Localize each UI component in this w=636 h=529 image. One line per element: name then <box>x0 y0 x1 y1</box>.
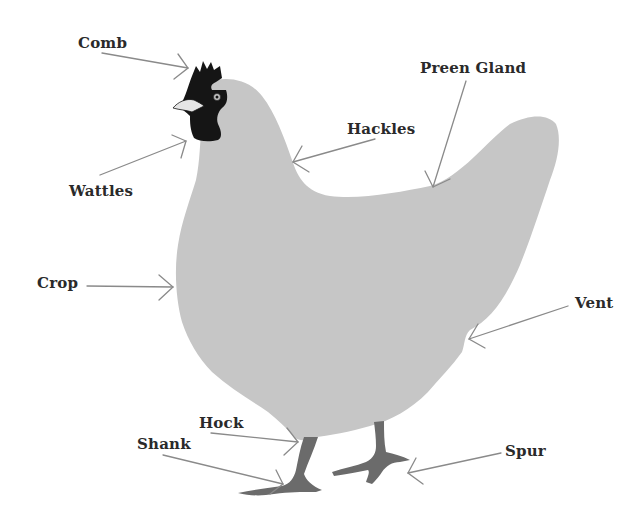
label-hock: Hock <box>199 416 244 431</box>
shank-arrow <box>163 455 283 494</box>
spur-arrow <box>408 453 501 484</box>
label-vent: Vent <box>575 296 613 311</box>
label-preen-gland: Preen Gland <box>420 61 526 76</box>
label-crop: Crop <box>37 276 78 291</box>
crop-arrow <box>87 275 173 300</box>
chicken-pupil <box>216 96 219 99</box>
label-shank: Shank <box>137 437 191 452</box>
chicken-anatomy-diagram: Comb Wattles Hackles Preen Gland Crop Ve… <box>0 0 636 529</box>
label-hackles: Hackles <box>347 122 416 137</box>
label-spur: Spur <box>505 444 546 459</box>
hock-arrow <box>211 428 298 455</box>
wattles-arrow <box>100 135 186 175</box>
label-wattles: Wattles <box>69 184 133 199</box>
label-comb: Comb <box>78 36 127 51</box>
hackles-arrow <box>293 139 375 172</box>
comb-arrow <box>102 53 188 79</box>
